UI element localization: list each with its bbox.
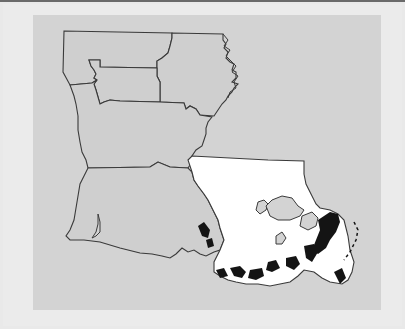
louisiana-map — [0, 0, 405, 329]
